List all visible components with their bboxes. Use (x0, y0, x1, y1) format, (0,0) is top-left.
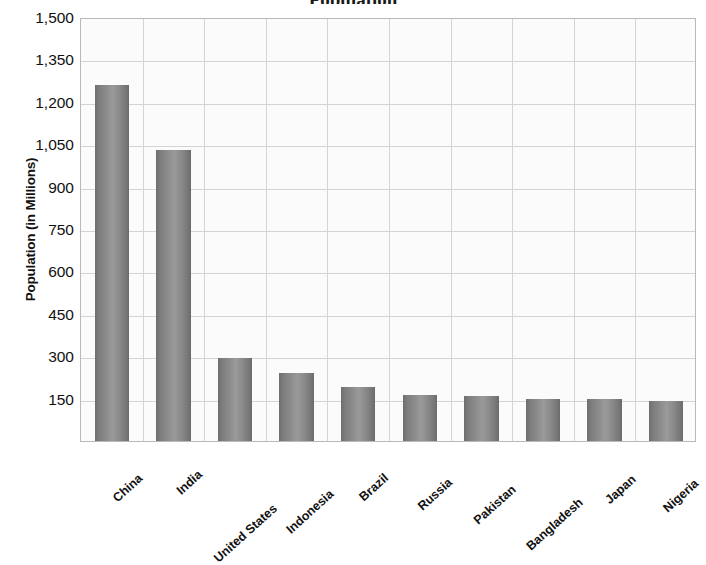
y-tick-label: 600 (18, 263, 74, 281)
y-tick-label: 1,350 (18, 51, 74, 69)
plot-inner (81, 19, 695, 441)
y-tick-label: 1,500 (18, 9, 74, 27)
y-tick-label: 450 (18, 306, 74, 324)
x-tick-label-india: India (174, 468, 205, 498)
vertical-gridline (143, 19, 144, 441)
bar-brazil[interactable] (341, 387, 375, 441)
y-tick-label: 300 (18, 348, 74, 366)
plot-area (80, 18, 696, 442)
x-tick-label-indonesia: Indonesia (283, 487, 336, 536)
vertical-gridline (451, 19, 452, 441)
x-tick-label-bangladesh: Bangladesh (524, 495, 586, 553)
x-tick-label-china: China (110, 471, 145, 505)
y-tick-label: 750 (18, 221, 74, 239)
vertical-gridline (204, 19, 205, 441)
horizontal-gridline (81, 146, 695, 147)
x-tick-label-nigeria: Nigeria (661, 476, 702, 515)
vertical-gridline (512, 19, 513, 441)
bar-pakistan[interactable] (464, 396, 498, 441)
horizontal-gridline (81, 61, 695, 62)
vertical-gridline (574, 19, 575, 441)
y-tick-label: 150 (18, 391, 74, 409)
x-tick-label-brazil: Brazil (357, 471, 392, 504)
vertical-gridline (635, 19, 636, 441)
y-tick-label: 1,200 (18, 94, 74, 112)
x-tick-label-japan: Japan (602, 472, 638, 507)
x-tick-label-russia: Russia (415, 475, 455, 513)
vertical-gridline (266, 19, 267, 441)
vertical-gridline (327, 19, 328, 441)
bar-russia[interactable] (403, 395, 437, 441)
x-tick-label-pakistan: Pakistan (471, 482, 519, 527)
bar-indonesia[interactable] (279, 373, 313, 441)
bar-japan[interactable] (587, 399, 621, 441)
x-tick-label-united-states: United States (211, 501, 280, 565)
bar-united-states[interactable] (218, 358, 252, 441)
y-axis-tick-labels: 1503004506007509001,0501,2001,3501,500 (12, 0, 74, 537)
y-tick-label: 1,050 (18, 136, 74, 154)
bar-bangladesh[interactable] (526, 399, 560, 441)
x-axis-tick-labels: ChinaIndiaUnited StatesIndonesiaBrazilRu… (80, 442, 696, 537)
bar-china[interactable] (95, 85, 129, 441)
vertical-gridline (389, 19, 390, 441)
horizontal-gridline (81, 104, 695, 105)
bar-nigeria[interactable] (649, 401, 683, 441)
bar-india[interactable] (156, 150, 190, 441)
y-tick-label: 900 (18, 179, 74, 197)
chart-title: Population (0, 0, 706, 4)
